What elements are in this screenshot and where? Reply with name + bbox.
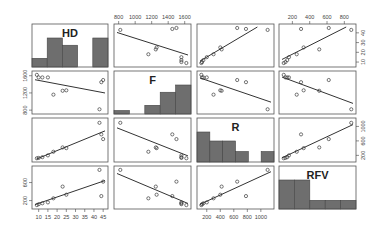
data-point (61, 185, 64, 188)
data-point (46, 76, 49, 79)
histogram-bar (32, 58, 47, 67)
scatter-panel-rfv-vs-f (114, 166, 191, 209)
data-point (52, 93, 55, 96)
tick-label: 40 (360, 30, 366, 36)
tick-label: 200 (360, 151, 366, 160)
regression-line (282, 77, 353, 103)
tick-label: 800 (340, 14, 349, 20)
data-point (155, 46, 158, 49)
tick-label: 1000 (129, 14, 141, 20)
histogram-panel-f: F (114, 71, 191, 114)
regression-line (200, 78, 271, 102)
histogram-bar (210, 141, 223, 162)
data-point (98, 108, 101, 111)
regression-line (200, 172, 271, 205)
regression-line (282, 27, 346, 59)
tick-label: 800 (22, 106, 28, 115)
data-point (295, 93, 298, 96)
tick-label: 200 (202, 214, 211, 220)
data-point (119, 168, 122, 171)
data-point (171, 133, 174, 136)
variable-label: HD (62, 27, 78, 39)
data-point (244, 194, 247, 197)
data-point (61, 89, 64, 92)
scatter-panel-r-vs-hd (32, 118, 108, 162)
pairs-plot-canvas: HDFRRFV800100012001400160020040060080010… (0, 0, 388, 234)
tick-label: 800 (114, 14, 123, 20)
histogram-bar (93, 38, 108, 67)
regression-line (200, 27, 257, 61)
data-point (266, 108, 269, 111)
scatter-panel-r-vs-rfv (279, 118, 356, 162)
data-point (220, 185, 223, 188)
data-point (147, 53, 150, 56)
data-point (98, 121, 101, 124)
data-point (295, 53, 298, 56)
panel-frame (279, 24, 356, 67)
tick-label: 1200 (22, 87, 28, 99)
data-point (154, 48, 157, 51)
data-point (100, 194, 103, 197)
histogram-bar (310, 200, 325, 209)
panel-frame (32, 118, 108, 162)
histogram-bar (197, 132, 210, 162)
data-point (244, 81, 247, 84)
data-point (236, 78, 239, 81)
data-point (299, 27, 302, 30)
tick-label: 25 (63, 214, 69, 220)
tick-label: 40 (91, 214, 97, 220)
data-point (175, 137, 178, 140)
regression-line (35, 181, 105, 205)
scatterplot-matrix: HDFRRFV800100012001400160020040060080010… (0, 0, 388, 234)
data-point (65, 89, 68, 92)
panel-frame (114, 24, 191, 67)
data-point (185, 203, 188, 206)
data-point (236, 26, 239, 29)
data-point (41, 76, 44, 79)
tick-label: 600 (22, 178, 28, 187)
histogram-bar (114, 111, 129, 114)
tick-label: 1000 (255, 214, 267, 220)
tick-label: 15 (45, 214, 51, 220)
data-point (98, 168, 101, 171)
scatter-panel-f-vs-rfv (279, 71, 356, 114)
tick-label: 600 (322, 14, 331, 20)
tick-label: 400 (216, 214, 225, 220)
tick-label: 400 (305, 14, 314, 20)
data-point (155, 193, 158, 196)
histogram-bar (261, 152, 274, 163)
variable-label: F (149, 74, 156, 86)
data-point (46, 201, 49, 204)
regression-line (117, 174, 188, 204)
histogram-panel-rfv: RFV (279, 166, 356, 209)
scatter-panel-hd-vs-f (114, 24, 191, 67)
tick-label: 200 (22, 196, 28, 205)
data-point (171, 27, 174, 30)
data-point (299, 133, 302, 136)
panel-frame (32, 71, 108, 114)
histogram-bar (160, 92, 175, 114)
variable-label: R (232, 121, 240, 133)
data-point (327, 26, 330, 29)
tick-label: 1000 (360, 120, 366, 132)
tick-label: 800 (243, 214, 252, 220)
tick-label: 10 (360, 59, 366, 65)
data-point (205, 76, 208, 79)
data-point (102, 78, 105, 81)
data-point (175, 180, 178, 183)
regression-line (35, 80, 105, 93)
histogram-panel-hd: HD (32, 24, 108, 67)
data-point (37, 76, 40, 79)
data-point (147, 197, 150, 200)
regression-line (117, 128, 188, 156)
tick-label: 200 (288, 14, 297, 20)
data-point (155, 147, 158, 150)
scatter-panel-r-vs-f (114, 118, 191, 162)
tick-label: 1400 (162, 14, 174, 20)
tick-label: 10 (36, 214, 42, 220)
tick-label: 20 (360, 49, 366, 55)
scatter-panel-f-vs-r (197, 71, 274, 114)
tick-label: 600 (360, 136, 366, 145)
data-point (302, 89, 305, 92)
data-point (350, 28, 353, 31)
